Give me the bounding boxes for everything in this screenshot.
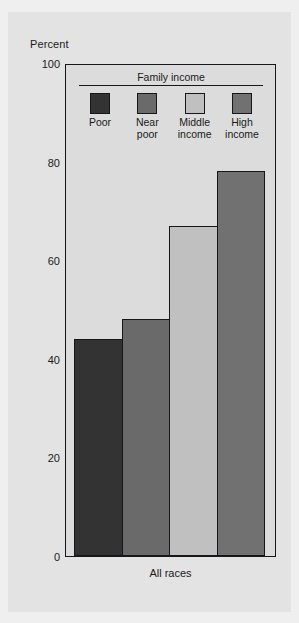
legend-item: Near poor [125, 93, 169, 140]
x-axis-category-label: All races [65, 567, 276, 579]
legend-label: High income [220, 117, 264, 140]
y-axis-tick: 0 [14, 551, 60, 563]
bar [74, 339, 123, 556]
legend-swatch [90, 93, 110, 114]
legend-swatch [232, 93, 252, 114]
plot-area: Family income PoorNear poorMiddle income… [65, 64, 276, 557]
legend-label: Middle income [173, 117, 217, 140]
y-axis-tick: 20 [14, 452, 60, 464]
legend-item: Poor [78, 93, 122, 140]
chart-legend: Family income PoorNear poorMiddle income… [78, 71, 264, 140]
legend-divider [79, 85, 263, 86]
y-axis-tick: 80 [14, 157, 60, 169]
legend-item: Middle income [173, 93, 217, 140]
legend-item: High income [220, 93, 264, 140]
legend-title: Family income [78, 71, 264, 85]
y-axis-tick: 40 [14, 354, 60, 366]
legend-items: PoorNear poorMiddle incomeHigh income [78, 93, 264, 140]
y-axis-tick: 100 [14, 58, 60, 70]
bar [122, 319, 171, 556]
legend-label: Near poor [125, 117, 169, 140]
y-axis-tick-labels: 020406080100 [8, 12, 60, 623]
bar [217, 171, 266, 556]
figure-card: Percent 020406080100 Family income PoorN… [8, 12, 291, 612]
legend-swatch [185, 93, 205, 114]
y-axis-tick: 60 [14, 255, 60, 267]
legend-swatch [137, 93, 157, 114]
bar [169, 226, 218, 556]
legend-label: Poor [78, 117, 122, 129]
